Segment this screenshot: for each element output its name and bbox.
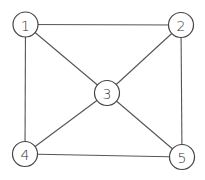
node-5: 5	[170, 145, 195, 170]
edge-2-5	[181, 25, 182, 157]
edge-1-2	[26, 25, 182, 26]
edge-1-3	[26, 25, 108, 94]
edge-1-4	[25, 25, 26, 155]
node-1: 1	[13, 12, 38, 37]
edge-3-5	[107, 93, 182, 157]
node-4: 4	[13, 142, 38, 167]
node-label: 3	[103, 86, 112, 102]
nodes-layer: 12345	[13, 12, 195, 170]
node-label: 2	[177, 18, 186, 34]
node-3: 3	[95, 81, 120, 106]
node-2: 2	[169, 13, 194, 38]
edge-2-3	[107, 25, 181, 93]
edge-3-4	[25, 93, 107, 154]
node-label: 4	[21, 147, 30, 163]
edge-4-5	[25, 154, 182, 157]
graph-diagram: 12345	[0, 0, 205, 180]
node-label: 1	[21, 18, 30, 34]
node-label: 5	[178, 150, 187, 166]
